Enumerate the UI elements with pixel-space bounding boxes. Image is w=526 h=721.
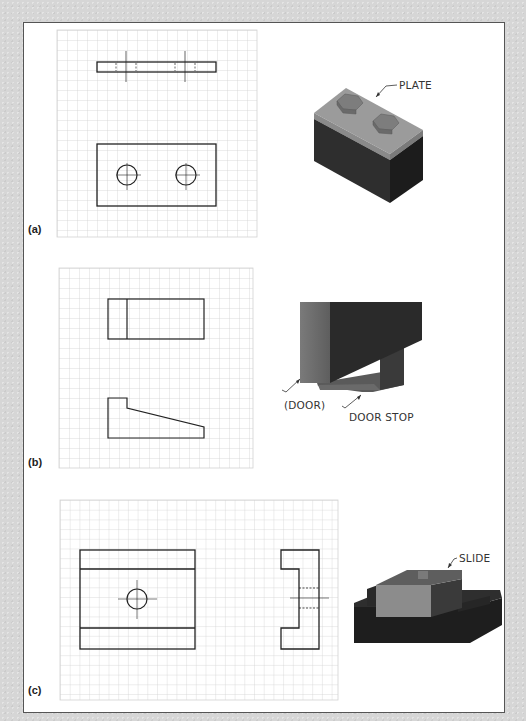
- grid-c: [60, 500, 338, 700]
- callout-slide: SLIDE: [459, 552, 490, 564]
- panel-label-b: (b): [28, 456, 42, 468]
- callout-plate: PLATE: [399, 79, 432, 91]
- slide-illustration: [354, 558, 502, 643]
- door-stop-illustration: [282, 302, 422, 408]
- grid-drawing-a: [0, 0, 526, 721]
- panel-label-c: (c): [28, 684, 41, 696]
- callout-door: (DOOR): [284, 399, 325, 411]
- callout-door-stop: DOOR STOP: [349, 411, 414, 423]
- plate-block-illustration: [314, 85, 423, 203]
- panel-label-a: (a): [28, 223, 41, 235]
